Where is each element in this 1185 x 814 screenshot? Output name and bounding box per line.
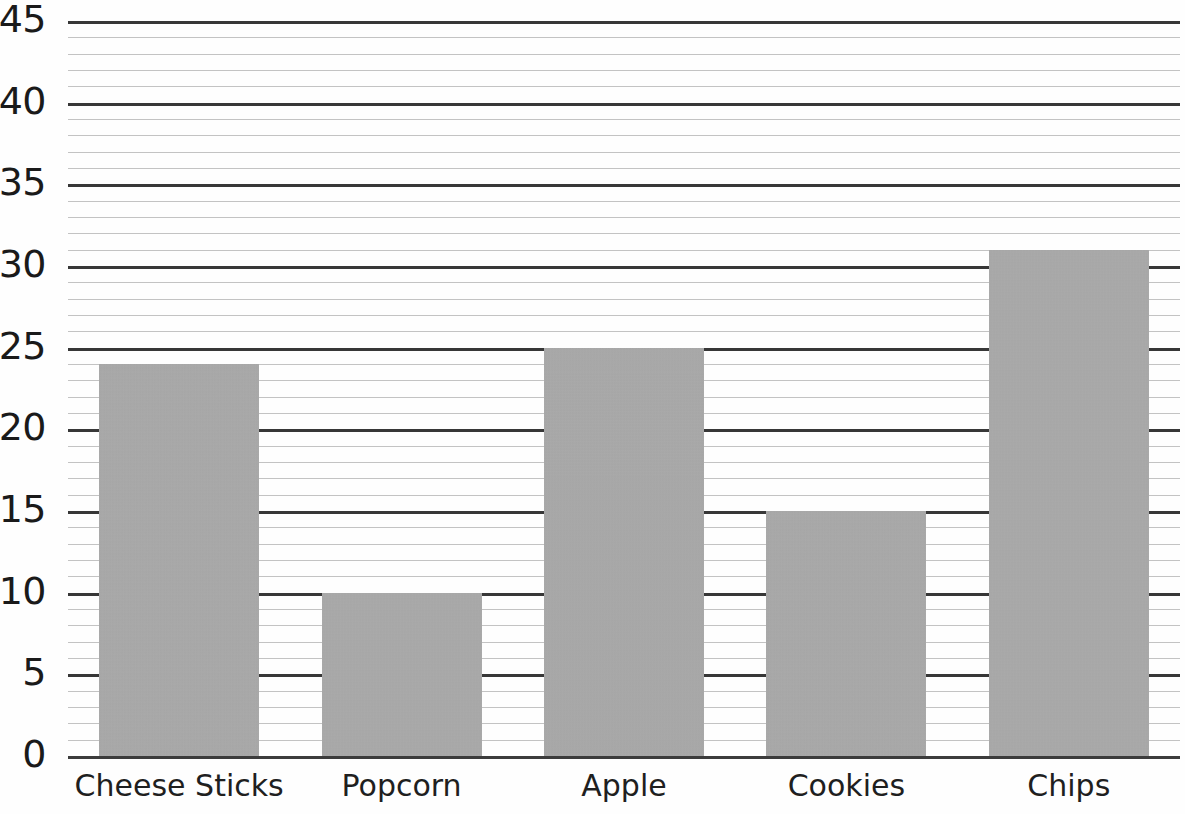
gridline-minor (68, 233, 1180, 234)
gridline-minor (68, 54, 1180, 55)
y-axis-tick-label: 15 (0, 490, 46, 528)
gridline-minor (68, 86, 1180, 87)
y-axis-tick-label: 20 (0, 408, 46, 446)
bar[interactable] (99, 364, 259, 756)
bar[interactable] (989, 250, 1149, 756)
x-axis: Cheese SticksPopcornAppleCookiesChips (0, 766, 1185, 814)
gridline-minor (68, 168, 1180, 169)
gridline-minor (68, 119, 1180, 120)
gridline-minor (68, 217, 1180, 218)
x-axis-category-label: Chips (919, 766, 1185, 806)
y-axis-tick-label: 35 (0, 163, 46, 201)
gridline-minor (68, 37, 1180, 38)
bar-chart: 051015202530354045 Cheese SticksPopcornA… (0, 0, 1185, 814)
gridline-minor (68, 70, 1180, 71)
gridline-major (68, 21, 1180, 24)
y-axis-tick-label: 40 (0, 82, 46, 120)
y-axis-tick-label: 10 (0, 572, 46, 610)
plot-area (68, 21, 1180, 756)
gridline-major (68, 184, 1180, 187)
bar[interactable] (322, 593, 482, 756)
gridline-minor (68, 152, 1180, 153)
gridline-minor (68, 201, 1180, 202)
gridline-minor (68, 135, 1180, 136)
y-axis-tick-label: 5 (22, 653, 46, 691)
y-axis: 051015202530354045 (0, 0, 68, 814)
bar[interactable] (544, 348, 704, 756)
y-axis-tick-label: 25 (0, 327, 46, 365)
y-axis-tick-label: 30 (0, 245, 46, 283)
gridline-major (68, 103, 1180, 106)
y-axis-tick-label: 45 (0, 0, 46, 38)
bar[interactable] (766, 511, 926, 756)
axis-baseline (68, 756, 1180, 759)
